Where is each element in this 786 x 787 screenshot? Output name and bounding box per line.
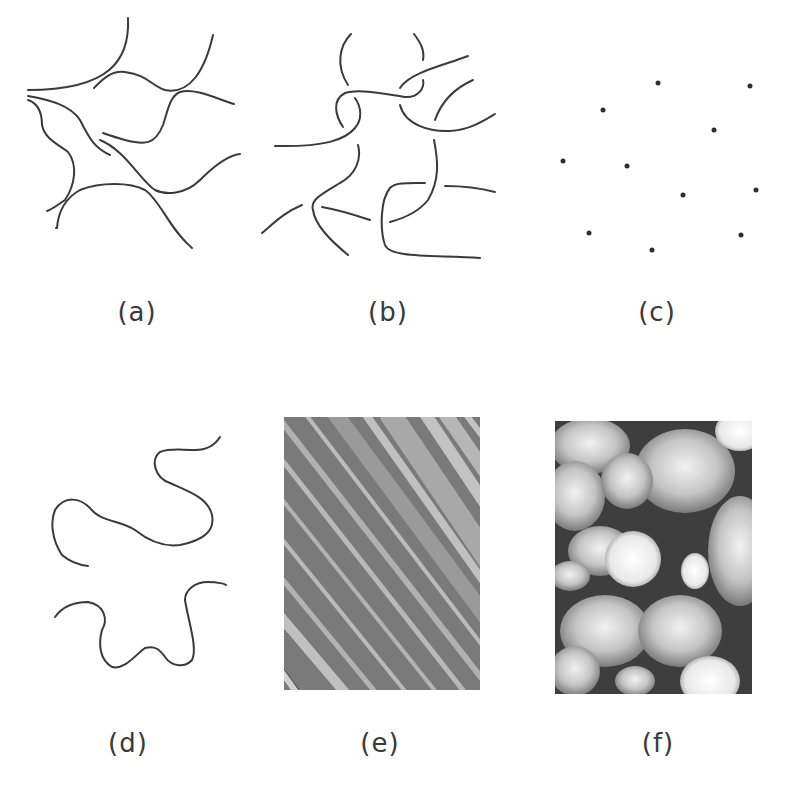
panel-e-label: (e) bbox=[340, 728, 420, 758]
panel-d-label: (d) bbox=[88, 728, 168, 758]
panel-b-label: (b) bbox=[348, 297, 428, 327]
panel-d bbox=[30, 420, 260, 720]
panel-b bbox=[250, 0, 520, 260]
panel-f-label: (f) bbox=[618, 728, 698, 758]
panel-c-label: (c) bbox=[617, 297, 697, 327]
scattered-dots-drawing bbox=[530, 50, 786, 270]
wavy-chains-drawing bbox=[30, 420, 260, 720]
panel-a-label: (a) bbox=[97, 297, 177, 327]
domain-micrograph bbox=[555, 421, 752, 694]
panel-c bbox=[530, 50, 786, 270]
fiber-network-drawing bbox=[0, 0, 262, 260]
panel-e bbox=[284, 417, 480, 690]
fiber-segments-drawing bbox=[250, 0, 520, 260]
panel-a bbox=[0, 0, 262, 260]
panel-f bbox=[555, 421, 752, 694]
lamellar-micrograph bbox=[284, 417, 480, 690]
